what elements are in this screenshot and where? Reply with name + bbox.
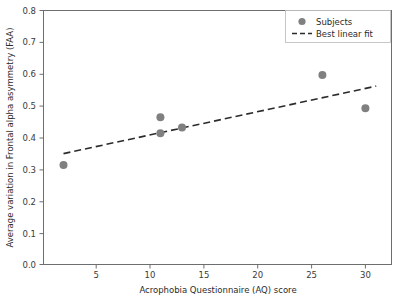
legend-marker-circle-icon xyxy=(298,18,305,25)
x-axis-title: Acrophobia Questionnaire (AQ) score xyxy=(139,285,296,295)
y-tick-label: 0.1 xyxy=(22,229,36,239)
data-point xyxy=(156,129,164,137)
data-point xyxy=(156,113,164,121)
data-point xyxy=(60,161,68,169)
y-tick-label: 0.8 xyxy=(22,6,36,16)
x-tick-label: 5 xyxy=(93,270,98,280)
legend-label-best-linear-fit: Best linear fit xyxy=(316,29,374,39)
y-tick-label: 0.6 xyxy=(22,69,36,79)
y-tick-label: 0.4 xyxy=(22,133,36,143)
data-point xyxy=(318,71,326,79)
data-point xyxy=(178,124,186,132)
y-tick-label: 0.0 xyxy=(22,260,36,270)
scatter-plot: 0.8 0.7 0.6 0.5 0.4 0.3 xyxy=(0,0,406,304)
x-tick-label: 15 xyxy=(198,270,209,280)
y-axis-title: Average variation in Frontal alpha asymm… xyxy=(5,27,15,247)
x-tick-label: 30 xyxy=(360,270,371,280)
data-point xyxy=(361,104,369,112)
x-tick-label: 25 xyxy=(306,270,317,280)
x-tick-label: 10 xyxy=(145,270,156,280)
legend[interactable]: Subjects Best linear fit xyxy=(286,11,391,43)
y-tick-label: 0.7 xyxy=(22,37,36,47)
figure-background xyxy=(0,0,406,304)
chart-figure: 0.8 0.7 0.6 0.5 0.4 0.3 xyxy=(0,0,406,304)
y-tick-label: 0.3 xyxy=(22,165,36,175)
y-tick-label: 0.2 xyxy=(22,197,36,207)
legend-label-subjects: Subjects xyxy=(316,17,353,27)
x-tick-label: 20 xyxy=(252,270,263,280)
y-tick-label: 0.5 xyxy=(22,101,36,111)
